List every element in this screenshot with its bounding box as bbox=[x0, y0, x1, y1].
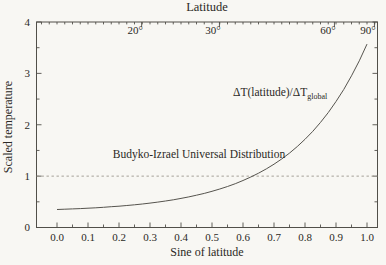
latitude-tick-label: 20° bbox=[127, 24, 142, 36]
x-tick-label: 0.1 bbox=[81, 231, 95, 243]
y-tick-label: 2 bbox=[25, 119, 31, 131]
y-tick-label: 1 bbox=[25, 170, 31, 182]
y-tick-label: 0 bbox=[25, 221, 31, 233]
plot-frame bbox=[37, 22, 378, 228]
x-tick-label: 0.3 bbox=[143, 231, 157, 243]
top-axis-title: Latitude bbox=[186, 0, 228, 14]
x-axis-label: Sine of latitude bbox=[170, 245, 243, 259]
chart-figure: 0.00.10.20.30.40.50.60.70.80.91.020°30°6… bbox=[0, 0, 386, 265]
distribution-curve bbox=[57, 44, 367, 209]
x-tick-label: 0.9 bbox=[329, 231, 343, 243]
latitude-tick-label: 60° bbox=[320, 24, 335, 36]
latitude-tick-label: 90° bbox=[360, 24, 375, 36]
x-tick-label: 1.0 bbox=[360, 231, 374, 243]
y-axis-label: Scaled temperature bbox=[1, 81, 15, 173]
y-tick-label: 3 bbox=[25, 67, 31, 79]
x-tick-label: 0.7 bbox=[267, 231, 281, 243]
x-tick-label: 0.6 bbox=[236, 231, 250, 243]
latitude-tick-label: 30° bbox=[205, 24, 220, 36]
annotation-delta-subscript: global bbox=[307, 92, 328, 101]
x-tick-label: 0.2 bbox=[112, 231, 126, 243]
latitude-temperature-chart: 0.00.10.20.30.40.50.60.70.80.91.020°30°6… bbox=[0, 0, 386, 265]
annotation-budyko-label: Budyko-Izrael Universal Distribution bbox=[113, 148, 286, 161]
x-tick-label: 0.8 bbox=[298, 231, 312, 243]
y-tick-label: 4 bbox=[25, 16, 31, 28]
annotation-delta-main: ΔT(latitude)/ΔT bbox=[233, 86, 307, 99]
x-tick-label: 0.0 bbox=[50, 231, 64, 243]
x-tick-label: 0.4 bbox=[174, 231, 188, 243]
annotation-delta-ratio: ΔT(latitude)/ΔTglobal bbox=[233, 86, 328, 101]
x-tick-label: 0.5 bbox=[205, 231, 219, 243]
